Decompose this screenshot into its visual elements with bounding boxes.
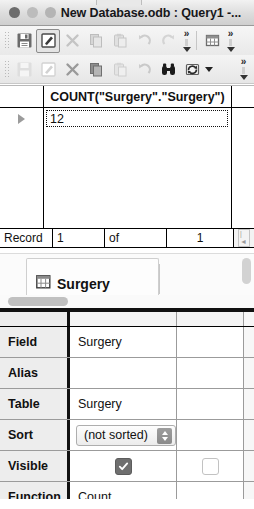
- overflow-bar-3: [242, 67, 245, 74]
- save-icon-2: [16, 61, 33, 78]
- design-grid-header-col1[interactable]: [70, 312, 177, 326]
- close-window-button[interactable]: [9, 7, 20, 18]
- design-row-alias: Alias: [0, 358, 254, 389]
- design-row-label-field: Field: [0, 327, 70, 357]
- design-row-label-sort: Sort: [0, 420, 70, 450]
- result-grid: COUNT("Surgery"."Surgery") 12: [0, 85, 254, 243]
- window-title: New Database.odb : Query1 -...: [56, 6, 246, 20]
- result-cell-value[interactable]: 12: [46, 110, 228, 127]
- toolbar-grip-2[interactable]: [4, 60, 9, 79]
- table-name-label: Surgery: [57, 276, 110, 292]
- toolbar-overflow-button[interactable]: »: [180, 29, 193, 53]
- refresh-button[interactable]: [132, 57, 156, 81]
- horizontal-scrollbar-thumb[interactable]: [8, 297, 68, 306]
- record-navigation-bar: Record 1 of 1 |◄: [0, 228, 254, 248]
- design-grid-header: [0, 312, 254, 327]
- libreoffice-base-query-window: New Database.odb : Query1 -...: [0, 0, 254, 509]
- copy-icon: [88, 32, 105, 49]
- delete-record-button[interactable]: [60, 57, 84, 81]
- design-grid-header-col2[interactable]: [177, 312, 244, 326]
- cut-icon: [64, 32, 81, 49]
- refresh-dropdown-caret-icon[interactable]: [205, 67, 213, 72]
- design-cell-field-col1[interactable]: Surgery: [70, 327, 177, 357]
- table-panel-vertical-scrollbar[interactable]: [242, 258, 251, 284]
- query-design-grid: Field Surgery Alias Table Surgery Sort (…: [0, 308, 254, 509]
- design-cell-field-col2[interactable]: [177, 327, 244, 357]
- stepper-up-icon: [162, 431, 168, 435]
- column-header-count[interactable]: COUNT("Surgery"."Surgery"): [44, 86, 232, 107]
- copy-button[interactable]: [84, 29, 108, 53]
- undo-icon-2: [136, 61, 153, 78]
- design-row-label-visible: Visible: [0, 451, 70, 481]
- design-cell-visible-col2: [177, 451, 244, 481]
- column-header-tail: [232, 86, 254, 107]
- design-grid-footer: [0, 499, 254, 509]
- table-box-title: Surgery: [27, 259, 158, 293]
- record-current-input[interactable]: 1: [53, 229, 105, 247]
- refresh-icon: [184, 61, 201, 78]
- design-row-label-table: Table: [0, 389, 70, 419]
- find-record-button[interactable]: [156, 57, 180, 81]
- record-label: Record: [0, 229, 53, 247]
- select-all-corner[interactable]: [0, 86, 44, 107]
- design-cell-table-col1[interactable]: Surgery: [70, 389, 177, 419]
- record-total-count: 1: [167, 229, 234, 247]
- refresh-data-button[interactable]: [180, 57, 204, 81]
- overflow-bar-2: [229, 39, 232, 46]
- design-row-tail-visible: [244, 451, 254, 481]
- toolbar-overflow-button-2[interactable]: »: [224, 29, 237, 53]
- copy-record-button[interactable]: [84, 57, 108, 81]
- design-row-label-alias: Alias: [0, 358, 70, 388]
- table-icon-small: [36, 275, 51, 293]
- title-bar: New Database.odb : Query1 -...: [0, 0, 254, 26]
- table-box-surgery[interactable]: Surgery: [26, 258, 159, 298]
- stepper-down-icon: [162, 437, 168, 441]
- sort-dropdown[interactable]: (not sorted): [76, 425, 176, 446]
- result-cell-column[interactable]: 12: [44, 108, 232, 243]
- redo-button[interactable]: [156, 29, 180, 53]
- toolbar-grip[interactable]: [4, 31, 9, 50]
- secondary-toolbar: »: [0, 55, 254, 84]
- nav-first-icon: |◄: [238, 229, 250, 247]
- binoculars-icon: [160, 61, 177, 78]
- edit-record-button[interactable]: [36, 57, 60, 81]
- table-design-panel: Surgery: [0, 253, 254, 295]
- save-icon: [16, 32, 33, 49]
- window-tab-nub: [96, 0, 142, 5]
- paste-icon-2: [112, 61, 129, 78]
- design-cell-alias-col2[interactable]: [177, 358, 244, 388]
- undo-icon: [136, 32, 153, 49]
- save-button[interactable]: [12, 29, 36, 53]
- sort-dropdown-stepper-icon[interactable]: [157, 428, 172, 444]
- visible-checkbox-col1[interactable]: [115, 458, 132, 475]
- toolbar-separator: [196, 31, 197, 50]
- design-cell-alias-col1[interactable]: [70, 358, 177, 388]
- traffic-lights: [9, 7, 56, 18]
- table-panel-horizontal-scrollbar[interactable]: [0, 295, 254, 308]
- edit-icon: [40, 32, 57, 49]
- design-cell-table-col2[interactable]: [177, 389, 244, 419]
- zoom-window-button[interactable]: [45, 7, 56, 18]
- undo-button[interactable]: [132, 29, 156, 53]
- design-cell-sort-col2[interactable]: [177, 420, 244, 450]
- paste-record-button[interactable]: [108, 57, 132, 81]
- table-view-button[interactable]: [200, 29, 224, 53]
- toolbar-overflow-button-3[interactable]: »: [237, 57, 250, 81]
- minimize-window-button[interactable]: [27, 7, 38, 18]
- sort-dropdown-value: (not sorted): [84, 428, 148, 442]
- table-box-divider: [159, 264, 160, 294]
- overflow-bar: [185, 39, 188, 46]
- edit-icon-2: [40, 61, 57, 78]
- design-row-tail-alias: [244, 358, 254, 388]
- design-row-field: Field Surgery: [0, 327, 254, 358]
- cut-button[interactable]: [60, 29, 84, 53]
- visible-checkbox-col2[interactable]: [202, 458, 219, 475]
- record-nav-button[interactable]: |◄: [234, 229, 254, 247]
- paste-button[interactable]: [108, 29, 132, 53]
- design-row-tail-table: [244, 389, 254, 419]
- design-row-table: Table Surgery: [0, 389, 254, 420]
- row-header[interactable]: [0, 108, 44, 243]
- table-icon: [204, 32, 221, 49]
- save-record-button[interactable]: [12, 57, 36, 81]
- edit-button[interactable]: [36, 29, 60, 53]
